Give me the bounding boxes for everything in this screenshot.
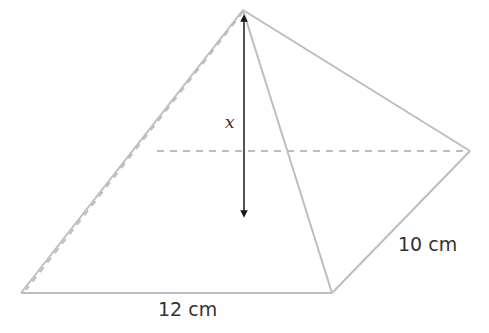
base-length-label: 12 cm (158, 298, 217, 320)
base-width-label: 10 cm (398, 233, 457, 255)
edge-base-right (332, 151, 470, 293)
pyramid-diagram (0, 0, 489, 333)
height-label: x (225, 112, 235, 132)
edge-apex-back-right (243, 10, 470, 151)
